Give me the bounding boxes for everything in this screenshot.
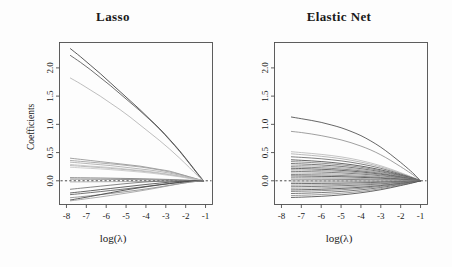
x-tick-label: -4 — [357, 211, 365, 221]
y-tick-label: 2.0 — [45, 62, 55, 74]
x-tick-label: -1 — [417, 211, 425, 221]
x-tick-label: -8 — [63, 211, 71, 221]
x-tick-label: -2 — [397, 211, 405, 221]
coefficient-paths-lasso — [70, 49, 203, 201]
y-tick-label: 0.0 — [45, 175, 55, 187]
x-tick-label: -5 — [122, 211, 130, 221]
y-tick-label: 1.5 — [45, 90, 55, 102]
x-tick-label: -3 — [377, 211, 385, 221]
y-tick-label: 1.0 — [45, 118, 55, 130]
y-tick-label: 2.0 — [260, 62, 270, 74]
y-tick-label: 0.5 — [260, 146, 270, 158]
y-tick-label: 1.0 — [260, 118, 270, 130]
y-tick-label: 0.5 — [45, 146, 55, 158]
axes-lasso: -8-7-6-5-4-3-2-10.00.51.01.52.0 — [45, 62, 210, 221]
x-axis-label-lasso: log(λ) — [0, 232, 226, 244]
x-tick-label: -4 — [142, 211, 150, 221]
figure-canvas: Lasso Coefficients log(λ) -8-7-6-5-4-3-2… — [0, 0, 452, 267]
y-tick-label: 0.0 — [260, 175, 270, 187]
panel-title-lasso: Lasso — [0, 9, 226, 25]
panel-title-elastic-net: Elastic Net — [226, 9, 452, 25]
x-tick-label: -6 — [317, 211, 325, 221]
coefficient-path — [70, 49, 203, 181]
y-axis-label-lasso: Coefficients — [26, 104, 36, 150]
panel-elastic-net: Elastic Net Coefficients log(λ) -8-7-6-5… — [226, 0, 452, 267]
coefficient-paths-elastic-net — [291, 117, 420, 197]
x-tick-label: -8 — [278, 211, 286, 221]
x-axis-label-elastic-net: log(λ) — [226, 232, 452, 244]
axes-elastic-net: -8-7-6-5-4-3-2-10.00.51.01.52.0 — [260, 62, 425, 221]
panel-lasso: Lasso Coefficients log(λ) -8-7-6-5-4-3-2… — [0, 0, 226, 267]
x-tick-label: -7 — [83, 211, 91, 221]
x-tick-label: -6 — [102, 211, 110, 221]
plot-area-elastic-net: -8-7-6-5-4-3-2-10.00.51.01.52.0 — [226, 0, 452, 267]
x-tick-label: -3 — [162, 211, 170, 221]
x-tick-label: -5 — [337, 211, 345, 221]
x-tick-label: -2 — [182, 211, 190, 221]
x-tick-label: -7 — [298, 211, 306, 221]
y-tick-label: 1.5 — [260, 90, 270, 102]
x-tick-label: -1 — [202, 211, 210, 221]
